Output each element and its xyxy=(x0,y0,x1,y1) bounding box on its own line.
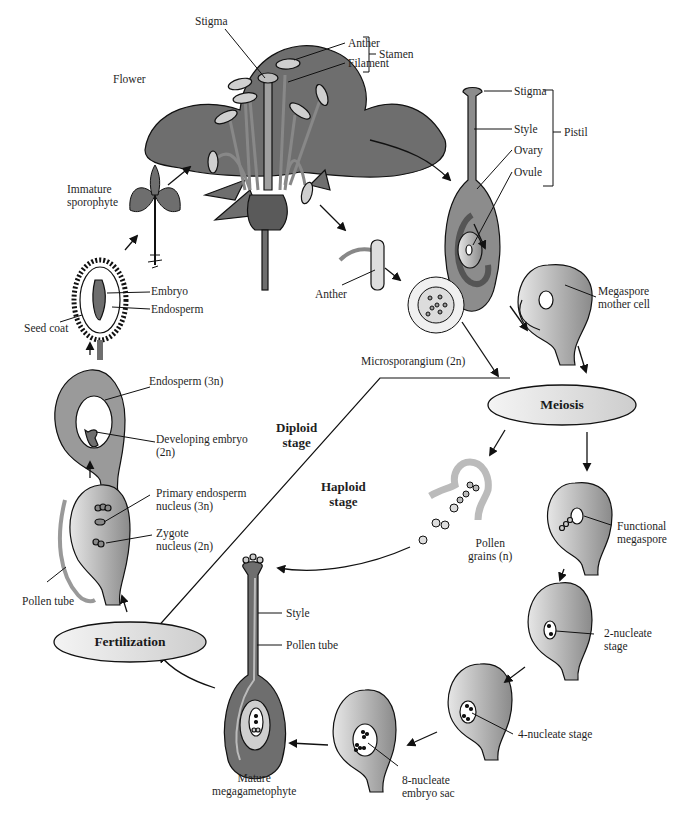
label-line: Functional xyxy=(617,520,667,533)
label-line: embryo sac xyxy=(402,787,455,800)
label-line: Developing embryo xyxy=(156,433,248,446)
label-endosperm-3n: Endosperm (3n) xyxy=(149,375,223,388)
label-megaspore-mother-cell: Megaspore mother cell xyxy=(598,285,650,311)
label-line: (2n) xyxy=(156,446,248,459)
label-seed-coat: Seed coat xyxy=(24,322,68,335)
label-primary-endosperm: Primary endosperm nucleus (3n) xyxy=(156,487,246,513)
flower-illustration xyxy=(145,46,446,290)
meiosis-node: Meiosis xyxy=(488,397,636,413)
ovule-megaspore-mother-cell xyxy=(518,265,592,365)
label-pollen-grains: Pollen grains (n) xyxy=(468,537,512,563)
label-diploid-stage: Diploid stage xyxy=(276,420,317,450)
label-functional-megaspore: Functional megaspore xyxy=(617,520,667,546)
label-line: Primary endosperm xyxy=(156,487,246,500)
label-line: Haploid xyxy=(321,479,366,494)
label-endosperm: Endosperm xyxy=(151,303,203,316)
label-line: stage xyxy=(276,435,317,450)
label-line: nucleus (3n) xyxy=(156,500,246,513)
label-line: 8-nucleate xyxy=(402,774,455,787)
label-flower: Flower xyxy=(113,73,146,86)
label-line: stage xyxy=(604,640,652,653)
label-zygote: Zygote nucleus (2n) xyxy=(156,527,213,553)
label-immature-sporophyte: Immature sporophyte xyxy=(67,183,118,209)
label-ovule: Ovule xyxy=(514,166,542,179)
label-line: Megaspore xyxy=(598,285,650,298)
label-line: nucleus (2n) xyxy=(156,540,213,553)
ovule-functional-megaspore xyxy=(548,483,612,575)
label-8-nucleate: 8-nucleate embryo sac xyxy=(402,774,455,800)
label-pollen-tube-bottom: Pollen tube xyxy=(286,639,338,652)
label-pistil: Pistil xyxy=(564,126,588,139)
label-embryo: Embryo xyxy=(151,285,188,298)
ovule-4-nucleate xyxy=(448,664,512,760)
microsporangium-illustration xyxy=(408,277,464,333)
label-line: megaspore xyxy=(617,533,667,546)
label-developing-embryo: Developing embryo (2n) xyxy=(156,433,248,459)
label-microsporangium: Microsporangium (2n) xyxy=(361,355,465,368)
label-stigma-flower: Stigma xyxy=(195,15,228,28)
label-pollen-tube-left: Pollen tube xyxy=(22,595,74,608)
ovule-8-nucleate xyxy=(333,690,396,792)
label-anther-flower: Anther xyxy=(348,37,380,50)
label-4-nucleate: 4-nucleate stage xyxy=(518,728,592,741)
label-anther-mid: Anther xyxy=(315,288,347,301)
label-line: Zygote xyxy=(156,527,213,540)
label-line: grains (n) xyxy=(468,550,512,563)
fertilized-ovule-illustration xyxy=(60,485,130,605)
anther-illustration xyxy=(340,240,384,290)
label-ovary: Ovary xyxy=(514,144,543,157)
label-line: Mature xyxy=(212,772,296,785)
label-line: sporophyte xyxy=(67,196,118,209)
label-pistil-stigma: Stigma xyxy=(514,85,547,98)
seed-illustration xyxy=(74,260,126,360)
label-line: 2-nucleate xyxy=(604,627,652,640)
label-haploid-stage: Haploid stage xyxy=(321,479,366,509)
pollen-grains-illustration xyxy=(419,462,488,544)
label-style-bottom: Style xyxy=(286,607,310,620)
mature-megagametophyte-illustration xyxy=(224,554,285,779)
label-line: Pollen xyxy=(468,537,512,550)
label-line: megagametophyte xyxy=(212,785,296,798)
label-line: mother cell xyxy=(598,298,650,311)
label-line: stage xyxy=(321,494,366,509)
label-stamen: Stamen xyxy=(379,48,414,61)
label-line: Immature xyxy=(67,183,118,196)
label-line: Diploid xyxy=(276,420,317,435)
label-mature-megagametophyte: Mature megagametophyte xyxy=(212,772,296,798)
fertilization-node: Fertilization xyxy=(54,634,206,650)
label-pistil-style: Style xyxy=(514,123,538,136)
label-2-nucleate: 2-nucleate stage xyxy=(604,627,652,653)
pistil-illustration xyxy=(445,88,500,312)
